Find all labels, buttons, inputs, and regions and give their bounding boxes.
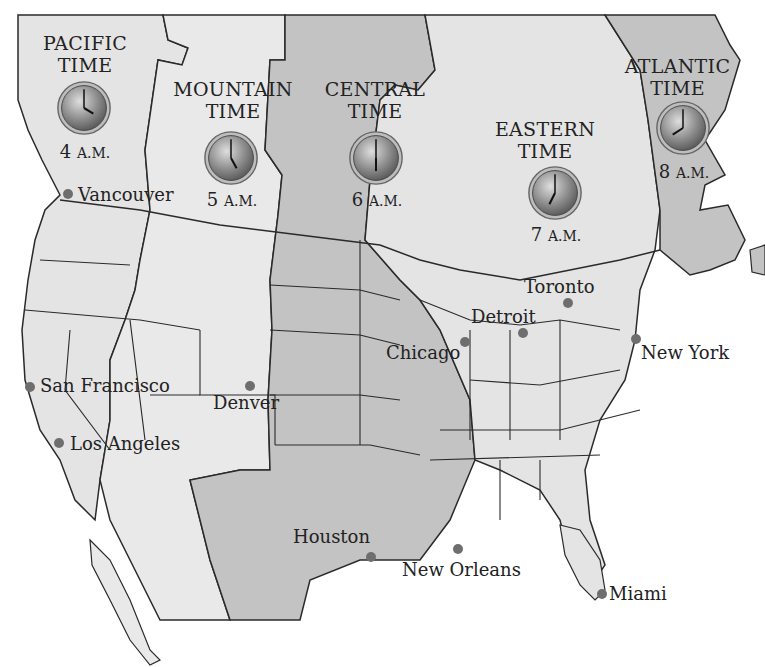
city-label-toronto: Toronto xyxy=(524,277,595,297)
city-dot-denver xyxy=(245,381,255,391)
clock-icon-pacific xyxy=(56,80,112,136)
city-label-denver: Denver xyxy=(213,393,279,413)
time-label-mountain: 5 A.M. xyxy=(197,190,267,211)
time-label-pacific: 4 A.M. xyxy=(50,142,120,163)
city-label-los-angeles: Los Angeles xyxy=(70,434,180,454)
city-dot-new-york xyxy=(631,334,641,344)
time-label-eastern: 7 A.M. xyxy=(521,225,591,246)
clock-icon-mountain xyxy=(203,130,259,186)
city-label-vancouver: Vancouver xyxy=(78,185,174,205)
zone-label-pacific: PACIFIC TIME xyxy=(30,32,140,76)
peninsula-florida xyxy=(560,525,605,600)
city-label-detroit: Detroit xyxy=(471,307,536,327)
clock-icon-eastern xyxy=(527,165,583,221)
clock-icon-central xyxy=(348,130,404,186)
city-dot-vancouver xyxy=(63,189,73,199)
city-dot-toronto xyxy=(563,298,573,308)
city-label-chicago: Chicago xyxy=(386,343,460,363)
city-dot-chicago xyxy=(460,337,470,347)
city-dot-miami xyxy=(597,589,607,599)
zone-label-atlantic: ATLANTIC TIME xyxy=(620,55,735,99)
clock-icon-atlantic xyxy=(655,100,711,156)
city-dot-new-orleans xyxy=(453,544,463,554)
island-newfoundland xyxy=(750,245,765,275)
zone-label-central: CENTRAL TIME xyxy=(320,78,430,122)
city-label-miami: Miami xyxy=(609,584,667,604)
city-dot-san-francisco xyxy=(25,382,35,392)
zone-label-mountain: MOUNTAIN TIME xyxy=(163,78,303,122)
city-dot-los-angeles xyxy=(54,438,64,448)
city-dot-houston xyxy=(366,552,376,562)
zone-label-eastern: EASTERN TIME xyxy=(490,118,600,162)
city-label-new-york: New York xyxy=(641,343,729,363)
time-label-central: 6 A.M. xyxy=(342,190,412,211)
city-label-san-francisco: San Francisco xyxy=(40,376,170,396)
city-label-houston: Houston xyxy=(293,527,370,547)
time-label-atlantic: 8 A.M. xyxy=(649,162,719,183)
city-label-new-orleans: New Orleans xyxy=(402,560,521,580)
city-dot-detroit xyxy=(518,328,528,338)
